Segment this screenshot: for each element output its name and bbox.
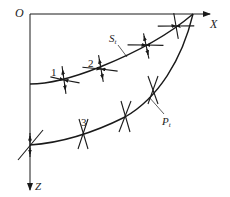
stress-crosses-p-t — [18, 76, 158, 160]
stress-crosses-s-t — [49, 10, 196, 96]
diagram-canvas: O X Z St Pt — [0, 0, 230, 197]
stress-cross-p-t-origin — [18, 130, 43, 160]
stress-cross-point-2 — [81, 52, 119, 84]
z-axis-label: Z — [35, 180, 42, 192]
stress-cross-s-t-3 — [126, 30, 166, 63]
point-label-2: 2 — [88, 57, 94, 69]
origin-label: O — [15, 6, 24, 20]
s-t-label: St — [109, 32, 118, 46]
point-label-3: 3 — [81, 116, 87, 128]
x-axis-label: X — [209, 17, 218, 31]
point-label-1: 1 — [51, 66, 57, 78]
p-t-label: Pt — [161, 115, 172, 129]
s-t-leader — [118, 45, 127, 57]
stress-cross-p-t-2 — [119, 101, 131, 132]
